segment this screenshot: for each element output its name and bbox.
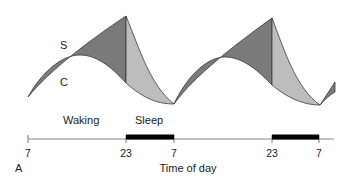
waking-label: Waking (63, 114, 99, 126)
waking-region-3 (320, 82, 335, 105)
two-process-diagram: S C Waking Sleep 7 23 7 23 7 A Time of d… (0, 0, 350, 182)
tick-label: 23 (120, 147, 132, 159)
tick-label: 7 (316, 147, 322, 159)
sleep-region-2 (272, 18, 320, 105)
sleep-bar-1 (126, 135, 174, 140)
diagram-canvas: S C Waking Sleep 7 23 7 23 7 A Time of d… (0, 0, 350, 182)
x-axis-title: Time of day (159, 162, 217, 174)
sleep-region-1 (126, 16, 174, 104)
c-curve-label: C (60, 76, 68, 88)
panel-label: A (15, 162, 23, 174)
tick-label: 7 (171, 147, 177, 159)
waking-region-1 (28, 16, 126, 97)
tick-label: 23 (266, 147, 278, 159)
tick-label: 7 (25, 147, 31, 159)
s-curve-label: S (60, 39, 67, 51)
sleep-label: Sleep (135, 114, 163, 126)
waking-region-2 (174, 18, 272, 104)
sleep-bar-2 (272, 135, 319, 140)
